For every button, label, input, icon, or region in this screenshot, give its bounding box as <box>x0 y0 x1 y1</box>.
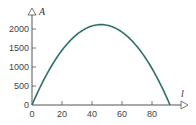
x-tick-label: 80 <box>147 109 157 119</box>
x-tick-label: 20 <box>57 109 67 119</box>
x-tick-label: 40 <box>87 109 97 119</box>
y-tick-label: 2000 <box>9 24 29 34</box>
x-axis-label: l <box>181 88 184 99</box>
x-tick-label: 60 <box>117 109 127 119</box>
axes <box>28 8 188 109</box>
area-vs-length-chart: 0500100015002000020406080 A l <box>0 0 196 125</box>
y-tick-label: 1500 <box>9 43 29 53</box>
data-curve <box>32 25 170 105</box>
x-axis-arrow-icon <box>181 101 188 109</box>
x-tick-label: 0 <box>29 109 34 119</box>
y-axis-label: A <box>38 6 46 17</box>
y-axis-arrow-icon <box>28 8 36 15</box>
y-tick-label: 500 <box>14 81 29 91</box>
y-tick-label: 0 <box>24 100 29 110</box>
y-tick-label: 1000 <box>9 62 29 72</box>
